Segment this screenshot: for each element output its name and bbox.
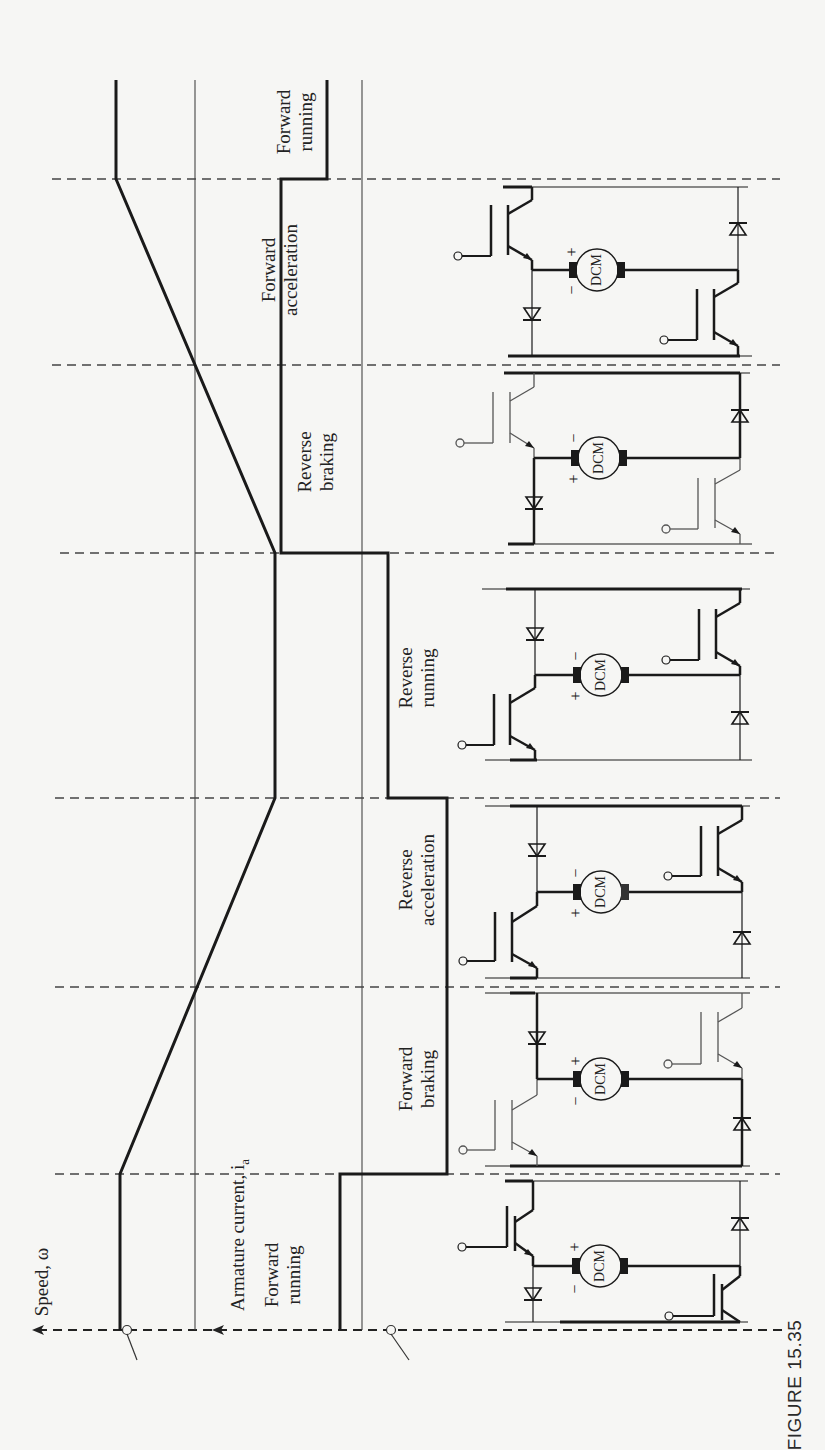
mode-label-forward-acceleration: Forwardacceleration bbox=[258, 224, 302, 316]
polarity-1-left: + bbox=[564, 1242, 586, 1251]
motor-label-2: DCM bbox=[590, 1063, 612, 1095]
figure-caption: FIGURE 15.35 bbox=[784, 1320, 806, 1450]
mode-label-forward-running-start: Forwardrunning bbox=[261, 1243, 305, 1307]
polarity-5-right: + bbox=[563, 474, 585, 483]
motor-label-3: DCM bbox=[590, 876, 612, 908]
motor-label-4: DCM bbox=[590, 659, 612, 691]
mode-label-reverse-running: Reverserunning bbox=[395, 647, 439, 708]
mode-label-forward-braking: Forwardbraking bbox=[395, 1047, 439, 1111]
polarity-4-left: − bbox=[565, 651, 587, 660]
speed-axis-label: Speed, ω bbox=[31, 1248, 53, 1316]
time-axis bbox=[32, 1325, 782, 1335]
polarity-3-left: − bbox=[565, 868, 587, 877]
polarity-2-right: − bbox=[565, 1096, 587, 1105]
current-axis-subscript: a bbox=[237, 1159, 252, 1165]
polarity-3-right: + bbox=[565, 908, 587, 917]
mode-label-forward-running-end: Forwardrunning bbox=[273, 90, 317, 154]
current-zero-marker-icon bbox=[387, 1326, 396, 1335]
motor-label-1: DCM bbox=[589, 1250, 611, 1282]
polarity-6-right: − bbox=[561, 285, 583, 294]
current-axis-label: Armature current, ia bbox=[227, 1159, 253, 1311]
polarity-4-right: + bbox=[565, 691, 587, 700]
motor-label-6: DCM bbox=[586, 254, 608, 286]
polarity-1-right: − bbox=[564, 1284, 586, 1293]
mode-label-reverse-braking: Reversebraking bbox=[294, 431, 338, 492]
motor-label-5: DCM bbox=[588, 442, 610, 474]
mode-label-reverse-acceleration: Reverseacceleration bbox=[395, 834, 439, 926]
polarity-5-left: − bbox=[563, 433, 585, 442]
speed-zero-marker-icon bbox=[123, 1326, 132, 1335]
polarity-6-left: + bbox=[561, 247, 583, 256]
current-axis-label-text: Armature current, i bbox=[227, 1165, 248, 1311]
motor-symbols bbox=[569, 249, 629, 1287]
polarity-2-left: + bbox=[565, 1056, 587, 1065]
